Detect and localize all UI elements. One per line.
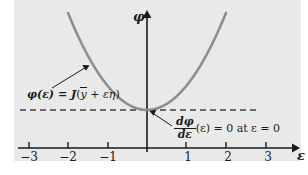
derivative-rest: (ε) = 0 at ε = 0 <box>196 122 280 135</box>
curve-equation-phi: φ(ε) = <box>27 88 71 101</box>
curve-equation-plus: + <box>87 88 103 101</box>
curve-equation-ybar: y <box>80 88 86 101</box>
figure-container: φ ε −3 −2 −1 1 2 3 φ(ε) = J(y + εη) dφ d… <box>0 0 308 175</box>
x-tick-label-minus3: −3 <box>18 150 40 164</box>
x-tick-label-2: 2 <box>217 150 239 164</box>
curve-equation-paren-close: ) <box>115 88 119 101</box>
derivative-denominator: dε <box>174 129 196 141</box>
curve-equation-eta-term: εη <box>103 88 116 101</box>
y-axis-label: φ <box>133 9 145 24</box>
curve-label-leader-line <box>52 66 88 88</box>
derivative-fraction: dφ dε <box>174 116 196 140</box>
x-tick-label-1: 1 <box>177 150 199 164</box>
curve-label-leader-arrowhead <box>82 65 89 71</box>
x-axis-label: ε <box>297 148 305 163</box>
x-tick-label-3: 3 <box>257 150 279 164</box>
derivative-condition-label: dφ dε (ε) = 0 at ε = 0 <box>174 116 280 140</box>
curve-equation-label: φ(ε) = J(y + εη) <box>27 88 120 101</box>
derivative-numerator: dφ <box>174 116 196 129</box>
x-tick-label-minus1: −1 <box>97 150 119 164</box>
x-tick-label-minus2: −2 <box>57 150 79 164</box>
